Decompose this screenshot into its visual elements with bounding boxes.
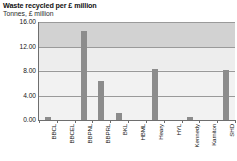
x-axis-tick-mark	[235, 120, 236, 123]
y-axis-tick-label: 12.00	[2, 43, 36, 50]
x-axis-tick-label: BBPRL	[104, 124, 111, 144]
x-axis-tick-mark	[75, 120, 76, 123]
x-axis-tick-mark	[92, 120, 93, 123]
x-axis-tick-mark	[199, 120, 200, 123]
x-axis-tick-label: Heary	[157, 124, 164, 140]
y-axis-tick-label: 4.00	[2, 92, 36, 99]
x-axis-tick-label: HYL	[175, 124, 182, 136]
x-axis-tick-label: HBML	[139, 124, 146, 141]
y-axis-tick-label: 16.00	[2, 18, 36, 25]
x-axis-tick-label: SHD	[228, 124, 235, 137]
x-axis-tick-mark	[146, 120, 147, 123]
x-axis-tick-mark	[217, 120, 218, 123]
x-axis-tick-mark	[110, 120, 111, 123]
x-axis-tick-label: BBCL	[50, 124, 57, 140]
x-axis-tick-labels: BBCLBBCELBBPNLBBPRLBKLHBMLHearyHYLKenned…	[39, 0, 235, 161]
x-axis-tick-mark	[164, 120, 165, 123]
x-axis-tick-mark	[128, 120, 129, 123]
x-axis-tick-label: Kennedy	[193, 124, 200, 147]
x-axis-tick-label: BBCEL	[68, 124, 75, 144]
x-axis-tick-mark	[182, 120, 183, 123]
x-axis-tick-label: Karniton	[210, 124, 217, 146]
x-axis-tick-mark	[39, 120, 40, 123]
x-axis-tick-mark	[57, 120, 58, 123]
x-axis-tick-label: BKL	[121, 124, 128, 135]
chart-figure: Waste recycled per £ million Tonnes, £ m…	[0, 0, 237, 161]
y-axis-tick-label: 8.00	[2, 67, 36, 74]
x-axis-tick-label: BBPNL	[86, 124, 93, 144]
y-axis-tick-labels: 0.004.008.0012.0016.00	[0, 0, 36, 161]
y-axis-tick-label: 0.00	[2, 116, 36, 123]
